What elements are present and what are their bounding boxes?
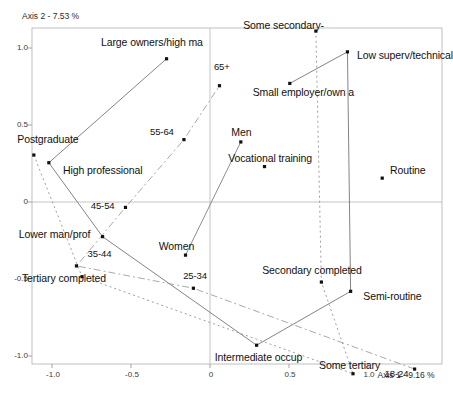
point-label: 35-44 [88,249,112,259]
data-point-marker [288,82,291,85]
point-label: Women [159,241,195,252]
data-point-marker [165,57,168,60]
point-label: Postgraduate [17,134,78,145]
data-point-marker [255,344,258,347]
x-tick-label: -1.0 [43,371,63,379]
data-point-marker [263,165,266,168]
data-point-marker [101,235,104,238]
data-point-marker [75,264,78,267]
y-tick-label: -0.5 [6,275,28,283]
data-point-marker [320,280,323,283]
data-point-marker [124,206,127,209]
point-label: Secondary completed [262,265,362,276]
point-label: Routine [390,165,426,176]
x-axis-title: Axis 1 - 9.16 % [377,371,434,380]
data-point-marker [381,177,384,180]
point-label: High professional [63,165,142,176]
point-label: Vocational training [228,153,312,164]
data-point-marker [192,287,195,290]
point-label: 65+ [214,62,230,72]
point-label: Tertiary completed [22,273,106,284]
data-point-marker [346,50,349,53]
y-tick-label: 0 [6,198,28,206]
data-point-marker [32,153,35,156]
point-label: Men [231,127,251,138]
y-tick-label: -1.0 [6,352,28,360]
data-point-marker [218,84,221,87]
data-point-marker [182,138,185,141]
plot-frame [32,28,442,364]
x-tick-label: 0.5 [280,371,300,379]
data-point-marker [184,254,187,257]
x-tick-label: 0 [201,371,221,379]
zero-axis-lines [32,28,442,364]
data-point-marker [349,290,352,293]
point-label: 25-34 [183,271,207,281]
point-label: Intermediate occup [215,352,303,363]
y-tick-label: 1.0 [6,44,28,52]
data-point-marker [47,161,50,164]
y-tick-label: 0.5 [6,121,28,129]
x-tick-label: 1.0 [359,371,379,379]
point-label: Semi-routine [363,291,421,302]
point-label: Large owners/high ma [101,37,203,48]
point-label: Some tertiary [319,360,380,371]
point-label: 55-64 [150,127,174,137]
data-point-marker [239,140,242,143]
data-point-marker [351,372,354,375]
point-label: Low superv/technical [357,50,453,61]
point-label: Small employer/own a [253,87,354,98]
x-tick-label: -0.5 [122,371,142,379]
point-label: Lower man/prof [19,229,91,240]
point-label: Some secondary- [243,20,324,31]
point-label: 45-54 [91,201,115,211]
y-axis-title: Axis 2 - 7.53 % [22,12,79,21]
